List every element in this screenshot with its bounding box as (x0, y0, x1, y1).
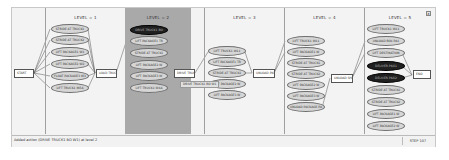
plan-graph-canvas: START LEVEL = 1 STRIDE AT TRUCK1 STRIDE … (12, 8, 435, 134)
action-node-selected[interactable]: DELIVER PKG1 (367, 61, 405, 71)
level-column-5: LEVEL = 5 LIFT TRUCK1 W11 UNLOAD BOX PA1… (364, 8, 435, 134)
action-node[interactable]: UNLOAD BOX PA1 (367, 36, 405, 46)
action-node[interactable]: LIFT PACKAGE3 W (130, 71, 168, 81)
end-node[interactable]: END (413, 70, 431, 79)
action-node[interactable]: STRIDE AT TRUCK1 (51, 24, 89, 34)
step-counter: STEP 107 (402, 137, 433, 145)
action-node[interactable]: STRIDE AT TRUCK2 (367, 97, 405, 107)
goal-node[interactable]: UNLOAD SHR (331, 74, 353, 83)
action-node[interactable]: FLOAT PACKAGE3 W3 (51, 71, 89, 81)
level-title: LEVEL = 1 (46, 15, 125, 20)
level-column-3: LEVEL = 3 LIFT TRUCK1 W11 LIFT PACKAGE1 … (204, 8, 284, 134)
status-bar: Added action (DRIVE TRUCK1 BO W1) at lev… (12, 135, 435, 147)
goal-node[interactable]: DRIVE TRUCK1 (174, 69, 195, 78)
level-column-2: LEVEL = 2 DRIVE TRUCK1 BO LIFT PACKAGE1 … (125, 8, 191, 134)
level-title: LEVEL = 5 (365, 15, 435, 20)
action-node[interactable]: LIFT PACKAGE1 W (367, 109, 405, 119)
action-node[interactable]: LIFT PACKAGE1 W (287, 47, 325, 57)
action-node[interactable]: STRIDE AT TRUCK1 (287, 58, 325, 68)
level-column-1: LEVEL = 1 STRIDE AT TRUCK1 STRIDE AT TRU… (45, 8, 125, 134)
status-message: Added action (DRIVE TRUCK1 BO W1) at lev… (14, 138, 97, 142)
action-node[interactable]: LIFT PACKAGE2 W (130, 60, 168, 70)
action-node-selected[interactable]: DRIVE TRUCK1 BO (130, 25, 168, 35)
planner-window: START LEVEL = 1 STRIDE AT TRUCK1 STRIDE … (11, 7, 436, 147)
action-node[interactable]: STRIDE AT TRUCK1 (208, 68, 246, 78)
start-node[interactable]: START (14, 69, 34, 78)
action-node[interactable]: STRIDE AT TRUCK2 (51, 35, 89, 45)
action-node[interactable]: LIFT PACKAGE1 W1 (51, 47, 89, 57)
goal-node[interactable]: LOAD TRUCK1 (96, 69, 117, 78)
action-tooltip: DRIVE TRUCK1 BO W1 (180, 81, 219, 88)
goal-node[interactable]: UNLOAD PKG (253, 69, 275, 78)
action-node[interactable]: LIFT PACKAGE2 W (367, 121, 405, 131)
action-node[interactable]: UNLOAD PACKAGE PA (287, 102, 325, 112)
action-node[interactable]: LIFT TRUCK1 W11 (367, 24, 405, 34)
action-node[interactable]: STRIDE AT TRUCK1 (367, 85, 405, 95)
action-node[interactable]: LIFT PACKAGE3 W (208, 90, 246, 100)
action-node[interactable]: LIFT PACKAGE2 W2 (51, 59, 89, 69)
action-node[interactable]: LIFT TRUCK1 IN5A (51, 83, 89, 93)
action-node[interactable]: STRIDE AT TRUCK2 (287, 69, 325, 79)
action-node[interactable]: STRIDE AT TRUCK1 (130, 48, 168, 58)
level-title: LEVEL = 3 (205, 15, 284, 20)
action-node[interactable]: LIFT PACKAGE2 W (287, 80, 325, 90)
action-node[interactable]: LIFT PACKAGE1 TR (130, 36, 168, 46)
close-icon[interactable]: x (426, 11, 431, 16)
level-column-4: LEVEL = 4 LIFT TRUCK1 W11 LIFT PACKAGE1 … (284, 8, 364, 134)
action-node[interactable]: LIFT PACKAGE1 TR (208, 57, 246, 67)
action-node[interactable]: LIFT TRUCK1 W11 (287, 36, 325, 46)
action-node[interactable]: LIFT PACKAGE3 W (287, 91, 325, 101)
level-title: LEVEL = 2 (125, 15, 191, 20)
action-node-selected[interactable]: DELIVER PKG2 (367, 73, 405, 83)
action-node[interactable]: LIFT DESTINATION (367, 48, 405, 58)
level-title: LEVEL = 4 (285, 15, 364, 20)
action-node[interactable]: LIFT TRUCK1 W11 (208, 46, 246, 56)
action-node[interactable]: LIFT TRUCK1 W4A (130, 83, 168, 93)
